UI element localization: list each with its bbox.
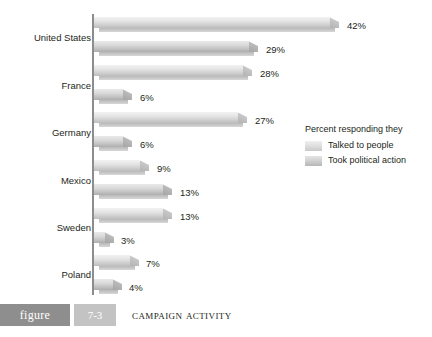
bar-mexico-talked-to-people — [94, 160, 149, 171]
bar-cap — [330, 17, 339, 28]
bar-united-states-took-political-action — [94, 41, 258, 52]
bar-depth — [99, 123, 243, 127]
bar-france-talked-to-people — [94, 65, 252, 76]
bar-cap — [243, 65, 252, 76]
value-label-poland-talked-to-people: 7% — [146, 259, 160, 269]
bar-depth — [99, 243, 110, 247]
bar-depth — [99, 100, 128, 104]
bar-cap — [140, 160, 149, 171]
value-label-united-states-talked-to-people: 42% — [347, 21, 366, 31]
bar-sweden-took-political-action — [94, 232, 114, 243]
value-label-france-took-political-action: 6% — [140, 93, 154, 103]
legend-item-talked-to-people: Talked to people — [305, 140, 430, 151]
category-label-united-states: United States — [0, 33, 91, 43]
bar-face — [94, 160, 140, 171]
bar-cap — [105, 232, 114, 243]
bar-poland-took-political-action — [94, 279, 122, 290]
bar-depth — [99, 195, 168, 199]
legend-label-talked-to-people: Talked to people — [328, 140, 394, 151]
category-label-mexico: Mexico — [0, 176, 91, 186]
value-label-poland-took-political-action: 4% — [129, 283, 143, 293]
bar-face — [94, 279, 113, 290]
bar-depth — [99, 290, 118, 294]
category-label-france: France — [0, 81, 91, 91]
bar-cap — [113, 279, 122, 290]
bar-cap — [163, 208, 172, 219]
bar-sweden-talked-to-people — [94, 208, 172, 219]
bar-face — [94, 65, 243, 76]
caption-figure-number: 7-3 — [74, 304, 116, 326]
bar-depth — [99, 266, 135, 270]
y-axis-line — [92, 14, 94, 295]
legend-title: Percent responding they — [305, 124, 430, 135]
bar-depth — [99, 147, 128, 151]
bar-depth — [99, 52, 254, 56]
caption-figure-word: figure — [0, 304, 70, 326]
legend-swatch-icon-talked-to-people — [305, 141, 322, 151]
bar-face — [94, 17, 330, 28]
figure-container: United States France Germany Mexico Swed… — [0, 0, 432, 337]
bar-cap — [123, 136, 132, 147]
legend-swatch-icon-took-political-action — [305, 156, 322, 166]
bar-face — [94, 255, 130, 266]
bar-depth — [99, 171, 145, 175]
bar-face — [94, 208, 163, 219]
category-label-sweden: Sweden — [0, 223, 91, 233]
figure-caption-bar: figure 7-3 Campaign Activity — [0, 304, 432, 326]
bar-cap — [238, 112, 247, 123]
bar-cap — [123, 89, 132, 100]
legend-label-took-political-action: Took political action — [328, 155, 406, 166]
bar-germany-took-political-action — [94, 136, 132, 147]
value-label-germany-talked-to-people: 27% — [255, 116, 274, 126]
value-label-germany-took-political-action: 6% — [140, 140, 154, 150]
chart-plot-area: United States France Germany Mexico Swed… — [0, 0, 432, 298]
value-label-united-states-took-political-action: 29% — [266, 45, 285, 55]
bar-face — [94, 232, 105, 243]
bar-cap — [163, 184, 172, 195]
bar-depth — [99, 219, 168, 223]
bar-france-took-political-action — [94, 89, 132, 100]
bar-depth — [99, 76, 248, 80]
bar-face — [94, 41, 249, 52]
bar-depth — [99, 28, 335, 32]
bar-mexico-took-political-action — [94, 184, 172, 195]
value-label-mexico-talked-to-people: 9% — [157, 164, 171, 174]
bar-cap — [130, 255, 139, 266]
value-label-sweden-talked-to-people: 13% — [180, 212, 199, 222]
bar-face — [94, 136, 123, 147]
bar-face — [94, 184, 163, 195]
category-label-germany: Germany — [0, 128, 91, 138]
category-label-poland: Poland — [0, 270, 91, 280]
legend-item-took-political-action: Took political action — [305, 155, 430, 166]
chart-legend: Percent responding they Talked to people… — [305, 124, 430, 170]
caption-figure-title: Campaign Activity — [116, 304, 432, 326]
value-label-france-talked-to-people: 28% — [260, 69, 279, 79]
value-label-mexico-took-political-action: 13% — [180, 188, 199, 198]
bar-united-states-talked-to-people — [94, 17, 339, 28]
bar-poland-talked-to-people — [94, 255, 139, 266]
bar-cap — [249, 41, 258, 52]
bar-face — [94, 89, 123, 100]
value-label-sweden-took-political-action: 3% — [121, 236, 135, 246]
bar-face — [94, 112, 238, 123]
bar-germany-talked-to-people — [94, 112, 247, 123]
